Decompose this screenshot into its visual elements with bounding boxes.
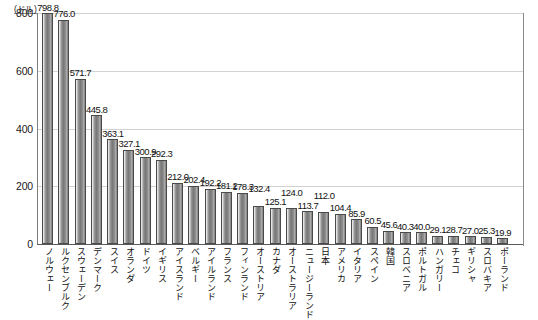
- category-label: アイルランド: [205, 247, 216, 301]
- category-label: フランス: [221, 247, 232, 283]
- bar-item[interactable]: 45.6: [383, 231, 394, 244]
- bar-rect[interactable]: [91, 115, 102, 244]
- bar-item[interactable]: 104.4: [335, 214, 346, 244]
- bar-value-label: 40.0: [413, 222, 430, 232]
- bar-item[interactable]: 125.1: [270, 208, 281, 244]
- bar-value-label: 132.4: [248, 184, 270, 194]
- bar-rect[interactable]: [123, 150, 134, 244]
- bar-rect[interactable]: [205, 189, 216, 244]
- plot-area: 798.8776.0571.7445.8363.1327.1300.9292.3…: [38, 13, 523, 244]
- bar-item[interactable]: 29.1: [432, 236, 443, 244]
- bar-value-label: 112.0: [314, 191, 335, 201]
- bar-item[interactable]: 798.8: [42, 13, 53, 244]
- frame-right-border: [523, 13, 524, 246]
- bar-rect[interactable]: [318, 212, 329, 244]
- bar-rect[interactable]: [172, 183, 183, 244]
- category-label: アメリカ: [335, 247, 346, 283]
- bar-rect[interactable]: [156, 160, 167, 244]
- bar-rect[interactable]: [302, 211, 313, 244]
- category-label: ドイツ: [140, 247, 151, 274]
- bar-item[interactable]: 178.3: [237, 193, 248, 244]
- category-label: ルクセンブルク: [58, 247, 69, 310]
- bar-item[interactable]: 40.0: [416, 232, 427, 244]
- bar-item[interactable]: 124.0: [286, 208, 297, 244]
- bar-item[interactable]: 571.7: [75, 79, 86, 244]
- bar-rect[interactable]: [481, 237, 492, 244]
- bar-rect[interactable]: [448, 236, 459, 244]
- bar-value-label: 363.1: [102, 129, 124, 139]
- bar-item[interactable]: 776.0: [58, 20, 69, 244]
- bar-item[interactable]: 112.0: [318, 212, 329, 244]
- bar-rect[interactable]: [335, 214, 346, 244]
- category-label: オランダ: [123, 247, 134, 283]
- bar-rect[interactable]: [188, 186, 199, 244]
- bar-rect[interactable]: [237, 193, 248, 244]
- bar-rect[interactable]: [58, 20, 69, 244]
- bar-value-label: 25.3: [478, 226, 495, 236]
- category-label: ニュージーランド: [302, 247, 313, 319]
- bar-rect[interactable]: [253, 206, 264, 244]
- bar-item[interactable]: 60.5: [367, 227, 378, 244]
- category-label: ポーランド: [497, 247, 508, 292]
- bar-rect[interactable]: [270, 208, 281, 244]
- bar-rect[interactable]: [75, 79, 86, 244]
- bar-rect[interactable]: [42, 13, 53, 244]
- bar-rect[interactable]: [465, 236, 476, 244]
- category-label: 日本: [318, 247, 329, 265]
- bar-value-label: 445.8: [86, 105, 108, 115]
- bar-item[interactable]: 181.2: [221, 192, 232, 244]
- bar-item[interactable]: 300.9: [140, 157, 151, 244]
- bar-series: 798.8776.0571.7445.8363.1327.1300.9292.3…: [38, 13, 523, 244]
- bar-value-label: 571.7: [70, 68, 92, 78]
- bar-item[interactable]: 28.7: [448, 236, 459, 244]
- bar-rect[interactable]: [140, 157, 151, 244]
- bar-rect[interactable]: [351, 219, 362, 244]
- bar-value-label: 28.7: [446, 225, 463, 235]
- category-label: チェコ: [448, 247, 459, 274]
- bar-rect[interactable]: [367, 227, 378, 244]
- bar-rect[interactable]: [221, 192, 232, 244]
- bar-item[interactable]: 27.0: [465, 236, 476, 244]
- category-label: スロベニア: [400, 247, 411, 292]
- x-axis-line: [37, 244, 523, 245]
- y-tick-label-600: 600: [16, 65, 33, 77]
- bar-item[interactable]: 25.3: [481, 237, 492, 244]
- bar-item[interactable]: 445.8: [91, 115, 102, 244]
- category-label: ベルギー: [188, 247, 199, 283]
- y-tick-label-400: 400: [16, 123, 33, 135]
- bar-item[interactable]: 212.0: [172, 183, 183, 244]
- bar-item[interactable]: 292.3: [156, 160, 167, 244]
- bar-value-label: 292.3: [151, 149, 173, 159]
- category-label: イギリス: [156, 247, 167, 283]
- category-label: スイス: [107, 247, 118, 274]
- y-tick-label-0: 0: [27, 238, 33, 250]
- bar-item[interactable]: 113.7: [302, 211, 313, 244]
- bar-rect[interactable]: [416, 232, 427, 244]
- category-label: カナダ: [270, 247, 281, 274]
- category-label: フィンランド: [237, 247, 248, 301]
- bar-item[interactable]: 132.4: [253, 206, 264, 244]
- bar-rect[interactable]: [497, 238, 508, 244]
- category-label: スロバキア: [481, 247, 492, 292]
- bar-rect[interactable]: [383, 231, 394, 244]
- category-label: ギリシャ: [465, 247, 476, 283]
- bar-value-label: 27.0: [462, 226, 479, 236]
- bar-item[interactable]: 363.1: [107, 139, 118, 244]
- category-label: イタリア: [351, 247, 362, 283]
- bar-item[interactable]: 85.9: [351, 219, 362, 244]
- bar-item[interactable]: 202.4: [188, 186, 199, 244]
- bar-item[interactable]: 192.2: [205, 189, 216, 244]
- bar-item[interactable]: 40.3: [400, 232, 411, 244]
- x-axis-category-labels: ノルウェールクセンブルクスウェーデンデンマークスイスオランダドイツイギリスアイス…: [38, 247, 523, 320]
- category-label: ハンガリー: [432, 247, 443, 292]
- bar-value-label: 124.0: [281, 188, 303, 198]
- bar-value-label: 113.7: [298, 201, 319, 211]
- bar-rect[interactable]: [400, 232, 411, 244]
- bar-value-label: 776.0: [53, 9, 75, 19]
- bar-item[interactable]: 19.9: [497, 238, 508, 244]
- bar-rect[interactable]: [432, 236, 443, 244]
- bar-rect[interactable]: [286, 208, 297, 244]
- category-label: デンマーク: [91, 247, 102, 292]
- bar-item[interactable]: 327.1: [123, 150, 134, 244]
- bar-rect[interactable]: [107, 139, 118, 244]
